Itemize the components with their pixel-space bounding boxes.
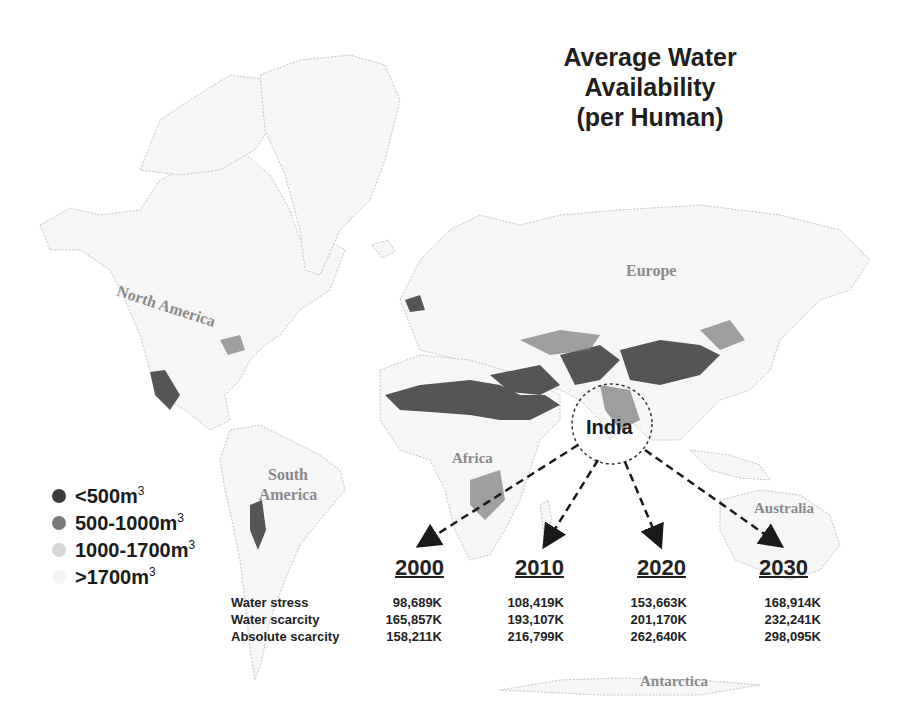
legend-item-gt-1700: >1700m3 [52,563,195,590]
arrow-2020 [625,462,660,545]
title-line-2: (per Human) [500,102,800,132]
cell-absolute-scarcity-2000: 158,211K [352,629,442,644]
land-antarctica [500,678,760,695]
land-se-asia-islands [690,450,770,480]
chart-title: Average Water Availability (per Human) [500,42,800,132]
cell-water-scarcity-2000: 165,857K [352,612,442,627]
cell-absolute-scarcity-2010: 216,799K [474,629,564,644]
cell-absolute-scarcity-2020: 262,640K [597,629,687,644]
legend-swatch-icon [52,516,66,530]
row-label-absolute-scarcity: Absolute scarcity [231,629,339,644]
cell-water-stress-2030: 168,914K [731,595,821,610]
label-antarctica: Antarctica [640,673,708,690]
row-label-water-stress: Water stress [231,595,309,610]
legend-label: <500m [75,484,138,506]
legend-item-1000-1700: 1000-1700m3 [52,536,195,563]
cell-absolute-scarcity-2030: 298,095K [731,629,821,644]
legend-label: >1700m [75,565,149,587]
title-line-1: Average Water Availability [500,42,800,102]
cell-water-stress-2000: 98,689K [352,595,442,610]
legend-swatch-icon [52,570,66,584]
year-header-2010: 2010 [515,555,564,581]
legend-label: 1000-1700m [75,538,188,560]
label-south-america: South America [258,465,318,505]
legend-swatch-icon [52,543,66,557]
cell-water-scarcity-2010: 193,107K [474,612,564,627]
land-iceland [372,240,395,258]
cell-water-scarcity-2020: 201,170K [597,612,687,627]
legend-item-lt-500: <500m3 [52,482,195,509]
legend-swatch-icon [52,489,66,503]
label-south-america-text: South America [258,465,318,505]
label-india: India [586,416,633,439]
year-header-2020: 2020 [637,555,686,581]
label-europe: Europe [626,262,676,280]
year-header-2030: 2030 [759,555,808,581]
land-arctic-islands [140,75,275,175]
cell-water-stress-2010: 108,419K [474,595,564,610]
cell-water-scarcity-2030: 232,241K [731,612,821,627]
land-madagascar [540,500,552,535]
label-australia: Australia [754,500,814,517]
arrow-2010 [545,460,598,545]
legend: <500m3 500-1000m3 1000-1700m3 >1700m3 [52,482,195,590]
cell-water-stress-2020: 153,663K [597,595,687,610]
legend-label: 500-1000m [75,511,177,533]
row-label-water-scarcity: Water scarcity [231,612,319,627]
legend-item-500-1000: 500-1000m3 [52,509,195,536]
year-header-2000: 2000 [395,555,444,581]
label-africa: Africa [452,450,493,467]
